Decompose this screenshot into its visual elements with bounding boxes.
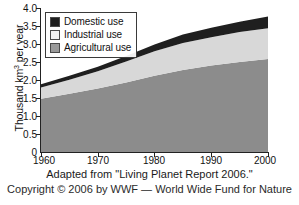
source-caption: Adapted from "Living Planet Report 2006.… <box>0 168 299 180</box>
legend-label: Domestic use <box>64 16 123 27</box>
x-tick-label: 2000 <box>254 155 276 166</box>
y-tick-label: 0.5 <box>11 129 37 140</box>
y-tick-label: 3.5 <box>11 21 37 32</box>
legend-item-agricultural-use: Agricultural use <box>50 41 131 54</box>
y-tick-label: 3.0 <box>11 39 37 50</box>
y-tick-label: 4.0 <box>11 3 37 14</box>
x-tick-label: 1990 <box>200 155 222 166</box>
legend-item-domestic-use: Domestic use <box>50 15 131 28</box>
figure: Thousand km3 per year 4.0 3.5 3.0 2.5 2.… <box>0 0 299 205</box>
x-axis-tick-labels: 1960 1970 1980 1990 2000 <box>0 155 299 169</box>
y-tick-label: 1.5 <box>11 93 37 104</box>
legend-label: Industrial use <box>64 29 122 40</box>
x-tick-label: 1980 <box>143 155 165 166</box>
legend-swatch-icon <box>50 43 60 53</box>
legend-swatch-icon <box>50 30 60 40</box>
legend-label: Agricultural use <box>64 42 131 53</box>
y-axis-line <box>40 8 41 153</box>
x-tick-label: 1970 <box>87 155 109 166</box>
legend-item-industrial-use: Industrial use <box>50 28 131 41</box>
legend: Domestic use Industrial use Agricultural… <box>45 12 137 58</box>
y-tick-label: 1.0 <box>11 111 37 122</box>
x-tick-label: 1960 <box>33 155 55 166</box>
legend-swatch-icon <box>50 17 60 27</box>
y-tick-label: 2.5 <box>11 57 37 68</box>
copyright-caption: Copyright © 2006 by WWF — World Wide Fun… <box>0 183 299 195</box>
y-tick-label: 2.0 <box>11 75 37 86</box>
